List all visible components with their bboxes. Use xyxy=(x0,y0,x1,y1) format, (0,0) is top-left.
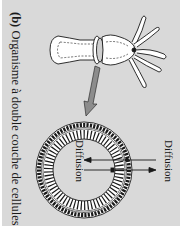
diffusion-label-outer: Diffusion xyxy=(163,140,174,182)
outward-arrow-head xyxy=(149,168,156,173)
boundary-marker xyxy=(111,168,114,172)
diffusion-label-inner: Diffusion xyxy=(74,140,85,182)
figure-label: (b) xyxy=(9,12,23,27)
diagram-artwork xyxy=(0,0,190,233)
pointer-arrow xyxy=(84,66,100,116)
figure-title: (b) Organisme à double couche de cellule… xyxy=(9,12,22,226)
boundary-marker xyxy=(125,158,128,161)
hydra-organism xyxy=(50,16,166,88)
figure-title-text: Organisme à double couche de cellules xyxy=(9,30,23,225)
